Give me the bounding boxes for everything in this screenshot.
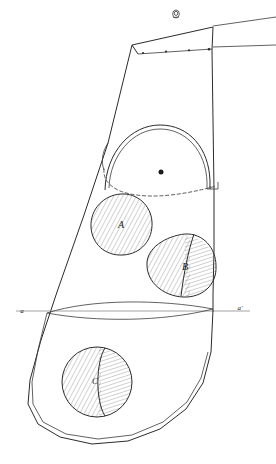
engineering-sketch: a a' A B C [0,0,276,464]
lens-profile-lower [47,309,213,319]
cutout-b-group: B [140,228,225,304]
center-reference-dot [159,170,164,175]
rivet-dot [142,52,144,54]
right-extension-line-mid [213,45,276,47]
panel-left-slant-edge [132,45,138,54]
cutout-a-label: A [117,219,125,230]
top-panel-lower-edge [138,49,212,54]
top-panel-upper-edge [132,27,213,45]
cutout-c-label: C [92,376,99,386]
section-label-left: a [20,307,24,315]
arch-outer-line [105,125,210,190]
cutout-c-group: C [60,345,137,421]
rivet-dot [188,49,190,51]
technical-drawing-canvas: a a' A B C [0,0,276,464]
cutout-b-label: B [182,261,188,272]
rivet-dot [165,50,167,52]
right-extension-line-top [213,17,276,26]
ring-eyelet-icon [173,10,180,18]
cutout-b-fill-right [185,228,225,304]
section-label-right: a' [238,304,244,312]
cutout-a-group: A [91,194,152,255]
rivet-dot [208,48,211,51]
